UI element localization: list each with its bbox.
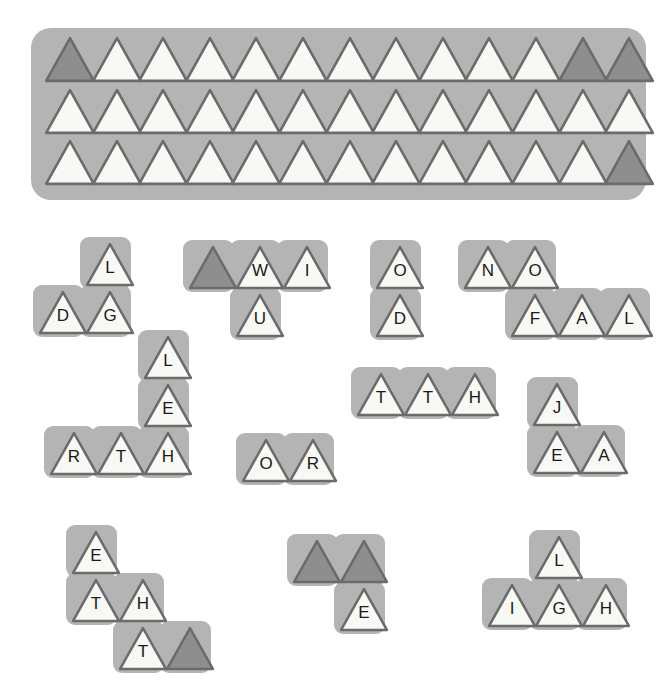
tray-empty-slot[interactable]: [324, 88, 376, 135]
triangle-shape: [44, 36, 96, 83]
blank-triangle-tile[interactable]: [165, 626, 215, 671]
tray-empty-slot[interactable]: [44, 139, 96, 186]
letter-triangle-tile[interactable]: D: [38, 290, 88, 335]
tray-empty-slot[interactable]: [463, 88, 515, 135]
letter-triangle-tile[interactable]: R: [288, 438, 338, 483]
tray-empty-slot[interactable]: [230, 139, 282, 186]
tray-grid[interactable]: [31, 28, 646, 200]
letter-triangle-tile[interactable]: O: [375, 245, 425, 290]
triangle-shape: [44, 139, 96, 186]
tray-empty-slot[interactable]: [510, 36, 562, 83]
triangle-shape: [118, 578, 168, 623]
letter-triangle-tile[interactable]: R: [49, 431, 99, 476]
triangle-shape: [235, 245, 285, 290]
letter-triangle-tile[interactable]: A: [579, 430, 629, 475]
letter-triangle-tile[interactable]: E: [71, 530, 121, 575]
letter-triangle-tile[interactable]: L: [534, 535, 584, 580]
tray-empty-slot[interactable]: [44, 88, 96, 135]
triangle-shape: [277, 88, 329, 135]
tray-empty-slot[interactable]: [417, 88, 469, 135]
tray-empty-slot[interactable]: [184, 139, 236, 186]
letter-triangle-tile[interactable]: G: [534, 583, 584, 628]
tray-empty-slot[interactable]: [370, 88, 422, 135]
letter-triangle-tile[interactable]: I: [487, 583, 537, 628]
triangle-shape: [96, 431, 146, 476]
tray-empty-slot[interactable]: [91, 36, 143, 83]
tray-empty-slot[interactable]: [324, 36, 376, 83]
tray-empty-slot[interactable]: [370, 139, 422, 186]
letter-triangle-tile[interactable]: T: [71, 578, 121, 623]
blank-triangle-tile[interactable]: [188, 245, 238, 290]
tray-empty-slot[interactable]: [91, 139, 143, 186]
triangle-shape: [324, 139, 376, 186]
tray-empty-slot[interactable]: [510, 139, 562, 186]
letter-triangle-tile[interactable]: E: [339, 587, 389, 632]
tray-empty-slot[interactable]: [137, 88, 189, 135]
letter-triangle-tile[interactable]: L: [604, 293, 654, 338]
triangle-shape: [463, 139, 515, 186]
blank-triangle-tile[interactable]: [292, 539, 342, 584]
letter-triangle-tile[interactable]: O: [510, 245, 560, 290]
letter-triangle-tile[interactable]: D: [375, 293, 425, 338]
tray-empty-slot[interactable]: [184, 36, 236, 83]
letter-triangle-tile[interactable]: L: [85, 242, 135, 287]
letter-triangle-tile[interactable]: H: [581, 583, 631, 628]
tray-blank-tile[interactable]: [603, 139, 655, 186]
letter-triangle-tile[interactable]: N: [463, 245, 513, 290]
tray-empty-slot[interactable]: [277, 88, 329, 135]
letter-triangle-tile[interactable]: H: [143, 431, 193, 476]
tray-empty-slot[interactable]: [324, 139, 376, 186]
letter-triangle-tile[interactable]: J: [532, 382, 582, 427]
letter-triangle-tile[interactable]: H: [450, 372, 500, 417]
triangle-shape: [277, 139, 329, 186]
tray-empty-slot[interactable]: [137, 139, 189, 186]
tray-empty-slot[interactable]: [277, 139, 329, 186]
letter-triangle-tile[interactable]: F: [510, 293, 560, 338]
triangle-shape: [85, 290, 135, 335]
letter-triangle-tile[interactable]: U: [235, 293, 285, 338]
triangle-shape: [85, 242, 135, 287]
letter-triangle-tile[interactable]: T: [96, 431, 146, 476]
tray-empty-slot[interactable]: [370, 36, 422, 83]
letter-triangle-tile[interactable]: T: [403, 372, 453, 417]
letter-triangle-tile[interactable]: I: [282, 245, 332, 290]
triangle-shape: [463, 245, 513, 290]
letter-triangle-tile[interactable]: A: [557, 293, 607, 338]
letter-triangle-tile[interactable]: T: [118, 626, 168, 671]
tray-empty-slot[interactable]: [463, 139, 515, 186]
letter-triangle-tile[interactable]: E: [532, 430, 582, 475]
tray-blank-tile[interactable]: [603, 36, 655, 83]
tray-blank-tile[interactable]: [44, 36, 96, 83]
tray-empty-slot[interactable]: [277, 36, 329, 83]
tray-empty-slot[interactable]: [91, 88, 143, 135]
tray-empty-slot[interactable]: [463, 36, 515, 83]
tray-empty-slot[interactable]: [510, 88, 562, 135]
tray-empty-slot[interactable]: [417, 36, 469, 83]
letter-triangle-tile[interactable]: E: [143, 383, 193, 428]
letter-triangle-tile[interactable]: L: [143, 335, 193, 380]
letter-triangle-tile[interactable]: G: [85, 290, 135, 335]
tray-empty-slot[interactable]: [557, 139, 609, 186]
tray-empty-slot[interactable]: [603, 88, 655, 135]
tray-empty-slot[interactable]: [417, 139, 469, 186]
tray-blank-tile[interactable]: [557, 36, 609, 83]
triangle-shape: [510, 36, 562, 83]
triangle-shape: [463, 36, 515, 83]
tray-empty-slot[interactable]: [184, 88, 236, 135]
letter-triangle-tile[interactable]: T: [356, 372, 406, 417]
triangle-shape: [487, 583, 537, 628]
letter-triangle-tile[interactable]: H: [118, 578, 168, 623]
triangle-shape: [143, 431, 193, 476]
triangle-shape: [403, 372, 453, 417]
tray-empty-slot[interactable]: [557, 88, 609, 135]
triangle-shape: [235, 293, 285, 338]
tray-empty-slot[interactable]: [137, 36, 189, 83]
tray-empty-slot[interactable]: [230, 88, 282, 135]
triangle-shape: [137, 139, 189, 186]
triangle-shape: [49, 431, 99, 476]
triangle-shape: [230, 139, 282, 186]
tray-empty-slot[interactable]: [230, 36, 282, 83]
letter-triangle-tile[interactable]: W: [235, 245, 285, 290]
letter-triangle-tile[interactable]: O: [241, 438, 291, 483]
blank-triangle-tile[interactable]: [339, 539, 389, 584]
